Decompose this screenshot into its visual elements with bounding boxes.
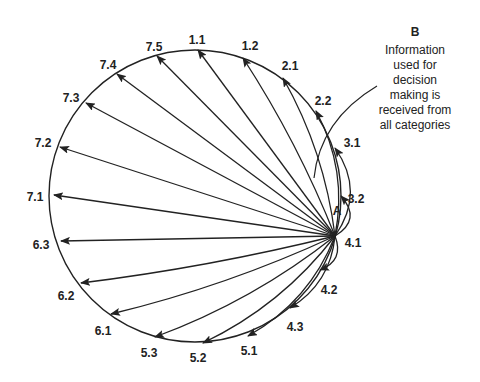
annotation-line: Information [385, 43, 445, 57]
annotation-line: making is [390, 88, 441, 102]
category-label-4-3: 4.3 [287, 320, 304, 334]
flow-arrow-6-3 [61, 236, 335, 241]
category-label-1-2: 1.2 [242, 39, 259, 53]
category-label-3-1: 3.1 [344, 136, 361, 150]
category-label-7-2: 7.2 [35, 136, 52, 150]
annotation-line: used for [393, 58, 436, 72]
category-label-5-1: 5.1 [241, 344, 258, 358]
category-labels: 1.11.22.12.23.13.24.24.35.15.25.36.16.26… [27, 33, 365, 365]
annotation-line: all categories [380, 118, 451, 132]
category-label-6-1: 6.1 [95, 324, 112, 338]
flow-arrow-7-5 [157, 56, 335, 236]
flow-arrow-1-1 [198, 50, 335, 236]
flow-arrow-5-2 [203, 236, 335, 343]
flow-arrow-7-4 [117, 74, 335, 236]
flow-arrow-7-3 [86, 103, 335, 236]
flow-arrow-6-2 [81, 236, 335, 283]
category-label-4-2: 4.2 [321, 283, 338, 297]
flow-arrow-7-2 [60, 147, 335, 236]
source-label-4-1: 4.1 [345, 236, 362, 250]
circular-flow-diagram: 1.11.22.12.23.13.24.24.35.15.25.36.16.26… [0, 0, 480, 382]
annotation-line: decision [393, 73, 437, 87]
annotation-b: B Informationused fordecisionmaking isre… [379, 25, 452, 132]
flow-arrows [54, 50, 350, 343]
source-marker-label: A [333, 204, 342, 218]
category-label-2-1: 2.1 [282, 59, 299, 73]
category-label-2-2: 2.2 [315, 94, 332, 108]
annotation-line: received from [379, 103, 452, 117]
category-label-3-2: 3.2 [348, 192, 365, 206]
category-label-7-3: 7.3 [63, 91, 80, 105]
category-label-7-5: 7.5 [146, 40, 163, 54]
category-label-5-3: 5.3 [141, 346, 158, 360]
annotation-heading: B [411, 25, 420, 39]
flow-arrow-5-3 [155, 236, 335, 337]
annotation-text: Informationused fordecisionmaking isrece… [379, 43, 452, 132]
category-label-7-1: 7.1 [27, 190, 44, 204]
flow-arrow-7-1 [54, 195, 335, 236]
category-label-6-3: 6.3 [33, 238, 50, 252]
category-label-7-4: 7.4 [100, 58, 117, 72]
category-label-5-2: 5.2 [190, 351, 207, 365]
category-label-1-1: 1.1 [189, 33, 206, 47]
category-label-6-2: 6.2 [58, 289, 75, 303]
